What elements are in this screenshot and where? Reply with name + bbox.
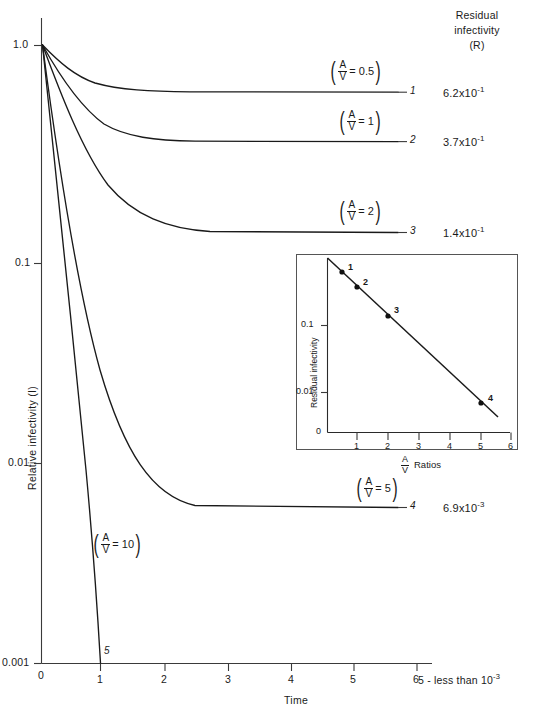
inset-y-tick-label-0p1: 0.1 [301,319,314,329]
av-value: = 5 [375,482,391,495]
x-tick-label-5: 5 [350,673,356,685]
residual-mantissa: 6.2x10 [443,87,477,99]
inset-point-label-1: 1 [348,262,353,272]
fraction-numerator: A [402,455,408,465]
x-tick-label-2: 2 [161,673,167,685]
footnote-curve-5: 5 - less than 10-3 [418,673,500,686]
residual-exponent: -3 [477,500,484,509]
curve-number-1: 1 [410,85,416,97]
fraction-denominator: V [365,489,372,500]
curve-5 [43,45,101,663]
inset-y-axis-title: Residual infectivity [310,338,320,408]
x-tick-label-4: 4 [288,673,294,685]
curve-3-av-label: ( A V = 2 ) [338,200,382,222]
curve-number-2: 2 [410,134,416,146]
inset-x-tick-label-6: 6 [508,441,513,451]
figure-container: 1.0 0.1 0.01 0.001 0 1 2 3 4 5 6 Relativ… [0,0,534,722]
curve-4-av-label: ( A V = 5 ) [355,477,399,499]
inset-point-2 [354,284,359,289]
residual-value-2: 3.7x10-1 [443,134,485,148]
x-tick-label-3: 3 [225,673,231,685]
y-axis-title: Relative infectivity (I) [26,386,38,490]
x-tick-label-1: 1 [97,673,103,685]
header-line-1: Residual [420,8,534,23]
footnote-text: 5 - less than 10 [418,674,493,686]
av-fraction: A V [101,533,110,555]
fraction-numerator: A [348,110,355,121]
inset-point-3 [385,313,390,318]
header-line-2: infectivity [420,23,534,38]
inset-x-tick-label-2: 2 [385,441,390,451]
av-value: = 10 [112,538,134,551]
inset-x-axis-title: A V Ratios [400,455,441,475]
curve-5-av-label: ( A V = 10 ) [92,533,142,555]
curve-number-3: 3 [410,225,416,237]
fraction-numerator: A [339,60,346,71]
y-tick-label-1: 1.0 [13,38,28,50]
av-value: = 0.5 [349,65,374,78]
inset-chart [297,255,518,450]
header-line-3: (R) [420,38,534,53]
curve-1-av-label: ( A V = 0.5 ) [329,60,382,82]
inset-x-tick-label-3: 3 [416,441,421,451]
residual-exponent: -1 [477,85,484,94]
av-fraction: A V [338,60,347,82]
fraction-denominator: V [402,466,408,476]
curve-2-av-label: ( A V = 1 ) [338,110,382,132]
av-fraction: A V [364,477,373,499]
inset-x-axis-suffix: Ratios [414,460,441,471]
fraction-numerator: A [102,533,109,544]
av-fraction: A V [347,110,356,132]
inset-x-tick-label-5: 5 [478,441,483,451]
residual-value-1: 6.2x10-1 [443,85,485,99]
y-tick-label-0p001: 0.001 [2,656,29,668]
x-tick-label-0: 0 [38,669,44,681]
inset-frame [297,255,518,450]
fraction-denominator: V [102,545,109,556]
residual-value-4: 6.9x10-3 [443,500,485,514]
av-value: = 1 [358,115,374,128]
residual-infectivity-header: Residual infectivity (R) [420,8,534,54]
chart-canvas [0,0,534,722]
inset-point-1 [339,269,344,274]
residual-value-3: 1.4x10-1 [443,225,485,239]
inset-y-tick-label-0: 0 [316,426,321,436]
residual-exponent: -1 [477,134,484,143]
inset-point-label-2: 2 [363,277,368,287]
residual-exponent: -1 [477,225,484,234]
inset-point-label-3: 3 [394,305,399,315]
inset-x-tick-label-1: 1 [354,441,359,451]
inset-point-label-4: 4 [488,393,493,403]
inset-x-tick-label-4: 4 [447,441,452,451]
av-fraction: A V [347,200,356,222]
curve-number-5: 5 [104,645,110,657]
av-value: = 2 [358,205,374,218]
fraction-denominator: V [348,122,355,133]
fraction-numerator: A [365,477,372,488]
footnote-exponent: -3 [493,672,500,681]
residual-mantissa: 6.9x10 [443,502,477,514]
residual-mantissa: 3.7x10 [443,136,477,148]
fraction-numerator: A [348,200,355,211]
x-axis-title: Time [284,694,308,706]
av-fraction: A V [401,455,409,475]
curve-number-4: 4 [410,500,416,512]
residual-mantissa: 1.4x10 [443,227,477,239]
fraction-denominator: V [339,72,346,83]
fraction-denominator: V [348,212,355,223]
inset-point-4 [478,400,483,405]
y-tick-label-0p1: 0.1 [15,256,30,268]
